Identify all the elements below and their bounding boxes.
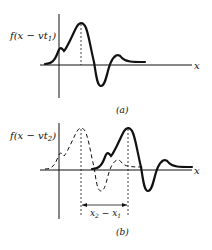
displacement-label: x2 − x1 xyxy=(90,208,121,219)
pulse-curve-a xyxy=(45,23,145,86)
panel-a: f(x − vt1) x (a) xyxy=(9,14,200,115)
xlabel-a: x xyxy=(194,60,200,71)
arrowhead-right xyxy=(122,203,127,207)
xlabel-b: x xyxy=(194,165,200,176)
traveling-wave-diagram: f(x − vt1) x (a) x2 − x1 f(x − vt2) x (b… xyxy=(0,0,212,250)
caption-a: (a) xyxy=(116,105,129,115)
arrowhead-left xyxy=(82,203,87,207)
pulse-curve-earlier-dashed xyxy=(45,128,145,191)
caption-b: (b) xyxy=(116,227,129,237)
ylabel-b: f(x − vt2) xyxy=(9,130,56,143)
panel-b: x2 − x1 f(x − vt2) x (b) xyxy=(9,123,200,237)
ylabel-a: f(x − vt1) xyxy=(9,30,56,43)
